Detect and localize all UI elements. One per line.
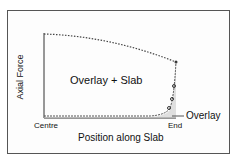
x-tick-end: End: [168, 121, 182, 130]
y-axis-label: Axial Force: [15, 47, 25, 107]
series-overlay-slab: [44, 34, 176, 62]
annotation-overlay-slab: Overlay + Slab: [70, 74, 142, 86]
x-axis-label: Position along Slab: [78, 132, 164, 143]
x-tick-centre: Centre: [34, 121, 58, 130]
series-overlay-fill: [44, 62, 176, 118]
series-overlay: [44, 62, 176, 116]
annotation-overlay: Overlay: [186, 110, 220, 121]
